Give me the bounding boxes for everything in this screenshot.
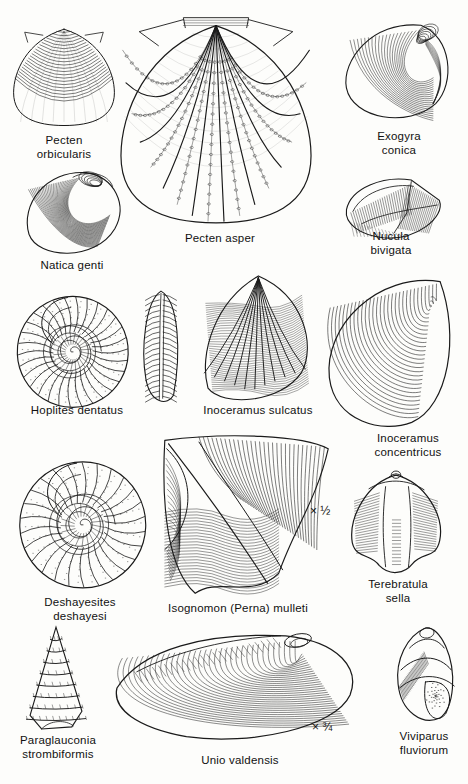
specimen-label-unio-valdensis: Unio valdensis — [164, 754, 316, 768]
specimen-illustration-viviparus-fluviorum — [388, 626, 460, 726]
specimen-label-hoplites-dentatus: Hoplites dentatus — [2, 404, 152, 418]
specimen-art-inoceramus-sulcatus — [196, 272, 316, 404]
specimen-label-pecten-asper: Pecten asper — [140, 232, 300, 246]
scale-annotation-scale-half: × ½ — [310, 504, 330, 518]
specimen-label-inoceramus-concentricus: Inoceramus concentricus — [352, 432, 464, 459]
specimen-illustration-isognomon-perna-mulleti — [142, 432, 332, 600]
specimen-art-deshayesites-deshayesi — [16, 446, 150, 592]
specimen-art-terebratula-sella — [344, 470, 448, 574]
specimen-art-viviparus-fluviorum — [388, 626, 460, 726]
specimen-label-pecten-orbicularis: Pecten orbicularis — [8, 134, 120, 161]
specimen-illustration-deshayesites-deshayesi — [16, 446, 150, 592]
specimen-label-terebratula-sella: Terebratula sella — [344, 578, 452, 605]
specimen-label-natica-genti: Natica genti — [8, 259, 136, 273]
specimen-illustration-paraglauconia-strombiformis — [20, 626, 92, 730]
specimen-illustration-pecten-orbicularis — [8, 18, 120, 130]
specimen-label-isognomon-perna-mulleti: Isognomon (Perna) mulleti — [140, 602, 336, 616]
specimen-art-exogyra-conica — [334, 14, 458, 126]
scale-annotation-scale-three-quarters: × ¾ — [312, 720, 332, 734]
specimen-art-paraglauconia-strombiformis — [20, 626, 92, 730]
specimen-art-isognomon-perna-mulleti — [142, 432, 332, 600]
specimen-art-natica-genti — [18, 168, 128, 260]
specimen-illustration-hoplites-dentatus-edge — [140, 290, 182, 404]
specimen-art-inoceramus-concentricus — [318, 272, 460, 432]
specimen-art-hoplites-dentatus-edge — [140, 290, 182, 404]
specimen-illustration-hoplites-dentatus — [14, 286, 132, 408]
specimen-label-viviparus-fluviorum: Viviparus fluviorum — [380, 730, 468, 757]
specimen-label-nucula-bivigata: Nucula bivigata — [336, 230, 446, 257]
specimen-illustration-inoceramus-concentricus — [318, 272, 460, 432]
specimen-art-pecten-asper — [120, 14, 312, 226]
specimen-illustration-pecten-asper — [120, 14, 312, 226]
specimen-art-pecten-orbicularis — [8, 18, 120, 130]
specimen-art-hoplites-dentatus — [14, 286, 132, 408]
specimen-illustration-natica-genti — [18, 168, 128, 260]
specimen-label-exogyra-conica: Exogyra conica — [340, 130, 458, 157]
specimen-illustration-exogyra-conica — [334, 14, 458, 126]
specimen-label-inoceramus-sulcatus: Inoceramus sulcatus — [186, 404, 330, 418]
specimen-illustration-inoceramus-sulcatus — [196, 272, 316, 404]
specimen-label-paraglauconia-strombiformis: Paraglauconia strombiformis — [2, 734, 114, 761]
fossil-plate: Pecten orbicularisPecten asperExogyra co… — [0, 0, 468, 784]
specimen-label-deshayesites-deshayesi: Deshayesites deshayesi — [10, 596, 150, 623]
specimen-illustration-terebratula-sella — [344, 470, 448, 574]
